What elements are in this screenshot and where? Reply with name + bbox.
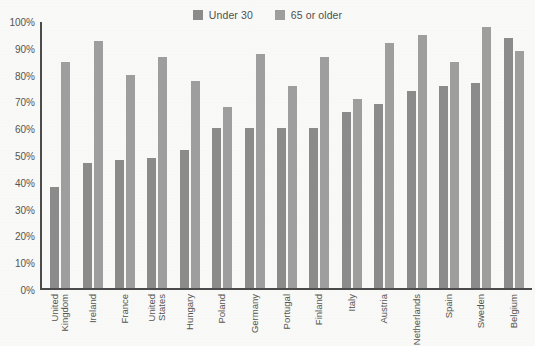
x-axis-tick-slot: Austria xyxy=(368,292,400,346)
x-axis-tick-slot: France xyxy=(109,292,141,346)
bar xyxy=(288,86,297,288)
y-axis-tick: 60% xyxy=(15,124,35,135)
bar xyxy=(223,107,232,288)
bar-chart: Under 30 65 or older 100%90%80%70%60%50%… xyxy=(0,0,535,346)
x-axis-tick: United Kingdom xyxy=(50,294,70,346)
bar xyxy=(94,41,103,288)
x-axis-tick: Ireland xyxy=(88,294,98,323)
bar-group xyxy=(465,22,497,288)
x-axis-tick: Sweden xyxy=(476,294,486,328)
bar xyxy=(245,128,254,288)
bar xyxy=(407,91,416,288)
bar xyxy=(158,57,167,288)
y-axis-tick: 70% xyxy=(15,97,35,108)
bar xyxy=(115,160,124,288)
bar xyxy=(439,86,448,288)
x-axis-tick: Belgium xyxy=(509,294,519,328)
x-axis-tick-slot: Finland xyxy=(303,292,335,346)
bar xyxy=(450,62,459,288)
bar-group xyxy=(303,22,335,288)
x-axis-tick: Italy xyxy=(347,294,357,311)
x-axis-tick: Germany xyxy=(250,294,260,333)
legend-label-65-or-older: 65 or older xyxy=(291,9,342,21)
bar xyxy=(212,128,221,288)
bar xyxy=(320,57,329,288)
x-axis-tick-slot: Portugal xyxy=(271,292,303,346)
bar xyxy=(342,112,351,288)
x-axis-tick-slot: United Kingdom xyxy=(44,292,76,346)
legend-entry-under-30: Under 30 xyxy=(193,9,253,21)
x-axis-tick-slot: United States xyxy=(141,292,173,346)
bar-group xyxy=(141,22,173,288)
x-axis-tick-slot: Germany xyxy=(238,292,270,346)
x-axis-tick-labels: United KingdomIrelandFranceUnited States… xyxy=(42,292,532,346)
legend-swatch-icon-65-or-older xyxy=(275,10,285,20)
plot-area: 100%90%80%70%60%50%40%30%20%10%0% xyxy=(40,22,532,290)
bar-group xyxy=(336,22,368,288)
bar xyxy=(277,128,286,288)
bar-group xyxy=(109,22,141,288)
bar-group xyxy=(271,22,303,288)
bar xyxy=(83,163,92,288)
bar xyxy=(256,54,265,288)
legend-swatch-icon-under-30 xyxy=(193,10,203,20)
y-axis-tick: 40% xyxy=(15,177,35,188)
y-axis-tick: 90% xyxy=(15,43,35,54)
y-axis-tick: 30% xyxy=(15,204,35,215)
bar xyxy=(50,187,59,288)
x-axis-tick-slot: Poland xyxy=(206,292,238,346)
x-axis-line xyxy=(40,288,532,290)
x-axis-tick-slot: Sweden xyxy=(465,292,497,346)
bar-group xyxy=(498,22,530,288)
bar-group xyxy=(76,22,108,288)
bar xyxy=(309,128,318,288)
y-axis-tick: 80% xyxy=(15,70,35,81)
y-axis-tick: 0% xyxy=(21,285,35,296)
bar xyxy=(471,83,480,288)
bar-groups xyxy=(42,22,532,288)
bar-group xyxy=(368,22,400,288)
y-axis-tick: 50% xyxy=(15,151,35,162)
y-axis-tick: 100% xyxy=(9,17,35,28)
x-axis-tick-slot: Ireland xyxy=(76,292,108,346)
bar-group xyxy=(206,22,238,288)
x-axis-tick-slot: Hungary xyxy=(174,292,206,346)
bar xyxy=(385,43,394,288)
bar xyxy=(418,35,427,288)
x-axis-tick: France xyxy=(120,294,130,324)
bar xyxy=(353,99,362,288)
bar-group xyxy=(433,22,465,288)
bar xyxy=(147,158,156,288)
y-axis-tick: 20% xyxy=(15,231,35,242)
legend-label-under-30: Under 30 xyxy=(209,9,253,21)
x-axis-tick: Spain xyxy=(444,294,454,318)
bar-group xyxy=(44,22,76,288)
x-axis-tick-slot: Italy xyxy=(336,292,368,346)
bar-group xyxy=(174,22,206,288)
x-axis-tick: Portugal xyxy=(282,294,292,329)
bar xyxy=(515,51,524,288)
bar xyxy=(126,75,135,288)
y-axis-tick: 10% xyxy=(15,258,35,269)
bar-group xyxy=(238,22,270,288)
x-axis-tick-slot: Belgium xyxy=(498,292,530,346)
bar xyxy=(61,62,70,288)
x-axis-tick: Netherlands xyxy=(412,294,422,345)
bar xyxy=(504,38,513,288)
bar xyxy=(374,104,383,288)
x-axis-tick: Poland xyxy=(217,294,227,324)
x-axis-tick-slot: Spain xyxy=(433,292,465,346)
x-axis-tick: Hungary xyxy=(185,294,195,330)
bar-group xyxy=(400,22,432,288)
bar xyxy=(191,81,200,288)
bar xyxy=(482,27,491,288)
x-axis-tick: Austria xyxy=(379,294,389,324)
chart-legend: Under 30 65 or older xyxy=(0,9,535,21)
x-axis-tick: United States xyxy=(147,294,167,346)
legend-entry-65-or-older: 65 or older xyxy=(275,9,342,21)
x-axis-tick-slot: Netherlands xyxy=(400,292,432,346)
x-axis-tick: Finland xyxy=(314,294,324,325)
bar xyxy=(180,150,189,288)
